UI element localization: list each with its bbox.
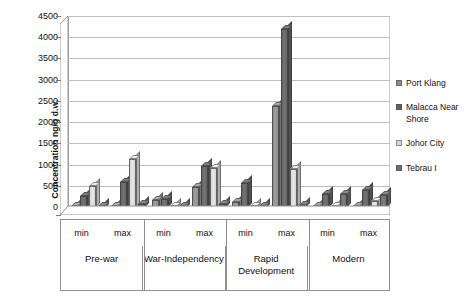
legend-label: Johor City bbox=[406, 138, 444, 149]
bar-group bbox=[68, 16, 108, 207]
legend-label: Port Klang bbox=[406, 78, 446, 89]
bar-side bbox=[136, 151, 140, 207]
bar bbox=[290, 169, 297, 207]
bar-face bbox=[210, 168, 217, 207]
legend-item[interactable]: Port Klang bbox=[396, 78, 466, 89]
bar bbox=[201, 166, 208, 207]
plot-area bbox=[60, 16, 390, 215]
bar-group bbox=[350, 16, 390, 207]
bar-series-container bbox=[68, 16, 390, 207]
bar bbox=[210, 168, 217, 207]
y-tick-mark bbox=[56, 143, 61, 144]
bar bbox=[192, 187, 199, 207]
x-tick-label: max bbox=[348, 220, 389, 246]
minmax-label-row: minmaxminmaxminmaxminmax bbox=[61, 220, 389, 246]
legend-label: Tebrau I bbox=[406, 163, 437, 174]
x-group-label: Rapid Development bbox=[225, 246, 307, 290]
bar-side bbox=[387, 187, 391, 207]
y-tick-label: 2000 bbox=[38, 117, 58, 127]
bar-group bbox=[189, 16, 229, 207]
bar-face bbox=[241, 183, 248, 207]
legend-swatch-icon bbox=[396, 80, 402, 86]
category-divider bbox=[144, 220, 145, 290]
y-tick-label: 3000 bbox=[38, 75, 58, 85]
x-tick-label: min bbox=[143, 220, 184, 246]
y-tick-label: 1500 bbox=[38, 138, 58, 148]
y-tick-mark bbox=[56, 80, 61, 81]
y-tick-label: 4500 bbox=[38, 11, 58, 21]
y-tick-mark bbox=[56, 122, 61, 123]
bar-face bbox=[129, 159, 136, 207]
bar bbox=[281, 29, 288, 207]
period-label-row: Pre-warWar-IndependencyRapid Development… bbox=[61, 246, 389, 290]
y-tick-mark bbox=[56, 165, 61, 166]
legend-swatch-icon bbox=[396, 165, 402, 171]
y-tick-mark bbox=[56, 215, 61, 216]
y-tick-mark bbox=[56, 37, 61, 38]
bar-chart: Concentration ng/g d.w. 4500400035003000… bbox=[0, 0, 468, 297]
bar bbox=[120, 182, 127, 207]
x-group-label: Pre-war bbox=[61, 246, 142, 290]
category-axis: minmaxminmaxminmaxminmax Pre-warWar-Inde… bbox=[60, 219, 390, 291]
y-tick-label: 2500 bbox=[38, 96, 58, 106]
bar-group bbox=[310, 16, 350, 207]
category-divider bbox=[226, 220, 227, 290]
legend-label: Malacca Near Shore bbox=[406, 102, 466, 125]
y-tick-mark bbox=[56, 101, 61, 102]
y-axis-tick-labels: 450040003500300025002000150010005000 bbox=[22, 0, 58, 297]
y-tick-label: 4000 bbox=[38, 32, 58, 42]
legend-item[interactable]: Malacca Near Shore bbox=[396, 102, 466, 125]
bar bbox=[272, 106, 279, 207]
x-tick-label: max bbox=[184, 220, 225, 246]
x-tick-label: min bbox=[61, 220, 102, 246]
bar-face bbox=[120, 182, 127, 207]
bar-face bbox=[272, 106, 279, 207]
legend-swatch-icon bbox=[396, 140, 402, 146]
bar-group bbox=[108, 16, 148, 207]
legend-swatch-icon bbox=[396, 104, 402, 110]
x-tick-label: max bbox=[266, 220, 307, 246]
bar bbox=[129, 159, 136, 207]
bar bbox=[241, 183, 248, 207]
category-divider bbox=[309, 220, 310, 290]
bar-face bbox=[201, 166, 208, 207]
bar bbox=[89, 186, 96, 207]
y-tick-mark bbox=[56, 58, 61, 59]
x-tick-label: max bbox=[102, 220, 143, 246]
x-group-label: Modern bbox=[307, 246, 389, 290]
x-tick-label: min bbox=[225, 220, 266, 246]
y-tick-label: 3500 bbox=[38, 53, 58, 63]
legend-item[interactable]: Johor City bbox=[396, 138, 466, 149]
x-group-label: War-Independency bbox=[142, 246, 224, 290]
plot-floor bbox=[60, 205, 390, 215]
bar-face bbox=[281, 29, 288, 207]
x-tick-label: min bbox=[307, 220, 348, 246]
y-tick-mark bbox=[56, 16, 61, 17]
y-tick-label: 1000 bbox=[38, 160, 58, 170]
y-tick-label: 0 bbox=[53, 202, 58, 212]
bar-face bbox=[290, 169, 297, 207]
legend: Port KlangMalacca Near ShoreJohor CityTe… bbox=[396, 78, 466, 187]
y-tick-mark bbox=[56, 186, 61, 187]
bar-group bbox=[149, 16, 189, 207]
bar-group bbox=[269, 16, 309, 207]
bar-face bbox=[192, 187, 199, 207]
bar-face bbox=[89, 186, 96, 207]
legend-item[interactable]: Tebrau I bbox=[396, 163, 466, 174]
bar-group bbox=[229, 16, 269, 207]
